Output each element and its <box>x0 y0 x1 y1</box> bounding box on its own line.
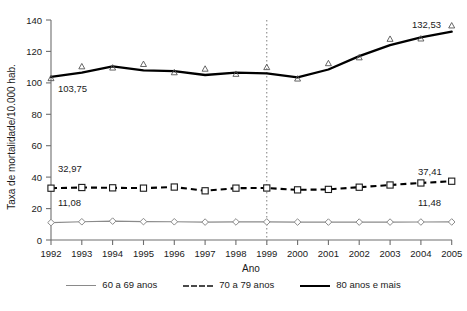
data-point-marker <box>109 218 116 225</box>
x-tick-label-1999: 1999 <box>256 248 277 259</box>
data-point-marker <box>356 219 363 226</box>
x-tick-label-1997: 1997 <box>195 248 216 259</box>
data-point-marker <box>325 60 331 65</box>
mortality-rate-line-chart: Taxa de mortalidade/10.000 hab. 140 120 … <box>0 0 467 311</box>
line-solid-gray-swatch-icon <box>66 280 96 290</box>
x-tick-label-2004: 2004 <box>410 248 431 259</box>
y-tick-label-80: 80 <box>31 109 42 120</box>
chart-plot-area: Taxa de mortalidade/10.000 hab. 140 120 … <box>0 0 467 311</box>
data-point-marker <box>356 184 362 190</box>
data-point-marker <box>202 188 208 194</box>
data-point-marker <box>325 219 332 226</box>
data-point-marker <box>294 219 301 226</box>
y-tick-label-100: 100 <box>26 77 42 88</box>
data-point-marker <box>387 182 393 188</box>
x-tick-label-2005: 2005 <box>441 248 462 259</box>
data-point-marker <box>48 219 55 226</box>
data-point-marker <box>233 219 240 226</box>
point-label-11-48: 11,48 <box>418 197 441 208</box>
legend-label-60-a-69-anos: 60 a 69 anos <box>102 279 157 290</box>
y-tick-label-120: 120 <box>26 46 42 57</box>
x-tick-label-1998: 1998 <box>225 248 246 259</box>
data-point-marker <box>79 63 85 68</box>
y-axis-ticks: 140 120 100 80 60 40 20 0 <box>26 15 51 246</box>
data-point-marker <box>325 186 331 192</box>
data-point-marker <box>79 218 86 225</box>
data-point-marker <box>449 178 455 184</box>
data-point-marker <box>140 61 146 66</box>
data-point-marker <box>448 219 455 226</box>
line-dashed-black-swatch-icon <box>183 280 213 290</box>
data-point-marker <box>233 185 239 191</box>
x-tick-label-1995: 1995 <box>133 248 154 259</box>
data-point-marker <box>263 219 270 226</box>
data-point-marker <box>418 219 425 226</box>
x-tick-label-2003: 2003 <box>380 248 401 259</box>
x-tick-label-2001: 2001 <box>318 248 339 259</box>
data-point-marker <box>387 219 394 226</box>
data-point-marker <box>387 36 393 41</box>
data-point-marker <box>171 218 178 225</box>
x-tick-label-1994: 1994 <box>102 248 123 259</box>
data-point-marker <box>140 218 147 225</box>
data-point-marker <box>79 184 85 190</box>
data-point-marker <box>110 185 116 191</box>
legend-label-80-anos-e-mais: 80 anos e mais <box>336 279 400 290</box>
line-solid-black-swatch-icon <box>300 280 330 290</box>
data-point-marker <box>264 185 270 191</box>
legend-label-70-a-79-anos: 70 a 79 anos <box>219 279 274 290</box>
y-tick-label-60: 60 <box>31 140 42 151</box>
legend-item-80-anos-e-mais[interactable]: 80 anos e mais <box>300 279 400 290</box>
data-point-marker <box>48 185 54 191</box>
chart-legend: 60 a 69 anos 70 a 79 anos 80 anos e mais <box>0 279 467 290</box>
y-axis-title: Taxa de mortalidade/10.000 hab. <box>6 64 17 210</box>
y-tick-label-40: 40 <box>31 172 42 183</box>
legend-item-70-a-79-anos[interactable]: 70 a 79 anos <box>183 279 274 290</box>
series-markers-70-a-79-anos <box>48 178 455 194</box>
data-point-marker <box>449 23 455 28</box>
data-point-marker <box>171 184 177 190</box>
point-label-132-53: 132,53 <box>412 19 441 30</box>
x-axis-ticks: 1992 1993 1994 1995 1996 1997 1998 1999 … <box>40 240 462 259</box>
point-label-11-08: 11,08 <box>58 197 81 208</box>
x-tick-label-2000: 2000 <box>287 248 308 259</box>
data-point-marker <box>202 66 208 71</box>
y-tick-label-0: 0 <box>37 235 42 246</box>
y-tick-label-140: 140 <box>26 15 42 26</box>
data-point-marker <box>140 185 146 191</box>
x-tick-label-1996: 1996 <box>164 248 185 259</box>
point-label-37-41: 37,41 <box>418 166 442 177</box>
y-tick-label-20: 20 <box>31 203 42 214</box>
x-tick-label-2002: 2002 <box>349 248 370 259</box>
x-tick-label-1993: 1993 <box>71 248 92 259</box>
x-tick-label-1992: 1992 <box>40 248 61 259</box>
data-point-marker <box>294 187 300 193</box>
x-axis-title: Ano <box>242 263 260 274</box>
point-label-32-97: 32,97 <box>58 163 82 174</box>
data-point-marker <box>202 219 209 226</box>
data-point-marker <box>418 180 424 186</box>
point-label-103-75: 103,75 <box>58 83 87 94</box>
legend-item-60-a-69-anos[interactable]: 60 a 69 anos <box>66 279 157 290</box>
